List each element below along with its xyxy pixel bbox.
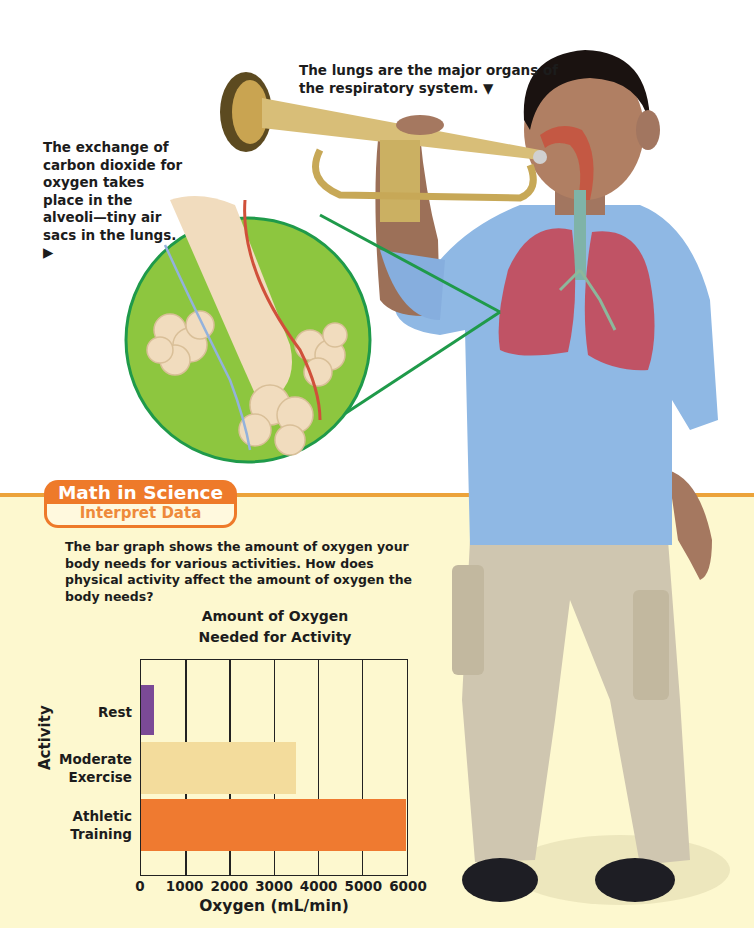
bar-athletic-training [141, 799, 406, 851]
chart-title: Amount of Oxygen Needed for Activity [160, 606, 390, 648]
y-category-label: Rest [98, 703, 132, 721]
x-tick-label: 6000 [389, 878, 427, 894]
x-tick-label: 3000 [255, 878, 293, 894]
question-prompt: The bar graph shows the amount of oxygen… [65, 539, 415, 605]
bar-chart-plot-area [140, 659, 408, 876]
x-tick-label: 5000 [345, 878, 383, 894]
right-shoe [595, 858, 675, 902]
math-in-science-badge: Math in Science Interpret Data [44, 480, 237, 528]
x-tick-label: 4000 [300, 878, 338, 894]
x-tick-label: 0 [135, 878, 144, 894]
y-category-label: AthleticTraining [70, 807, 132, 843]
bar-moderate-exercise [141, 742, 296, 794]
textbook-page: The exchange of carbon dioxide for oxyge… [0, 0, 754, 928]
lungs-caption: The lungs are the major organs of the re… [299, 62, 559, 97]
x-tick-label: 2000 [211, 878, 249, 894]
badge-title: Math in Science [44, 480, 237, 505]
x-axis-title: Oxygen (mL/min) [140, 897, 408, 915]
alveoli-caption: The exchange of carbon dioxide for oxyge… [43, 139, 183, 262]
left-shoe [462, 858, 538, 902]
boy-pants [452, 540, 690, 865]
badge-subtitle: Interpret Data [44, 504, 237, 528]
boy-hand [668, 470, 712, 580]
y-axis-title: Activity [36, 705, 54, 770]
chart-title-line-1: Amount of Oxygen [160, 606, 390, 627]
y-category-label: ModerateExercise [59, 750, 132, 786]
bar-rest [141, 685, 154, 735]
chart-title-line-2: Needed for Activity [160, 627, 390, 648]
x-tick-label: 1000 [166, 878, 204, 894]
